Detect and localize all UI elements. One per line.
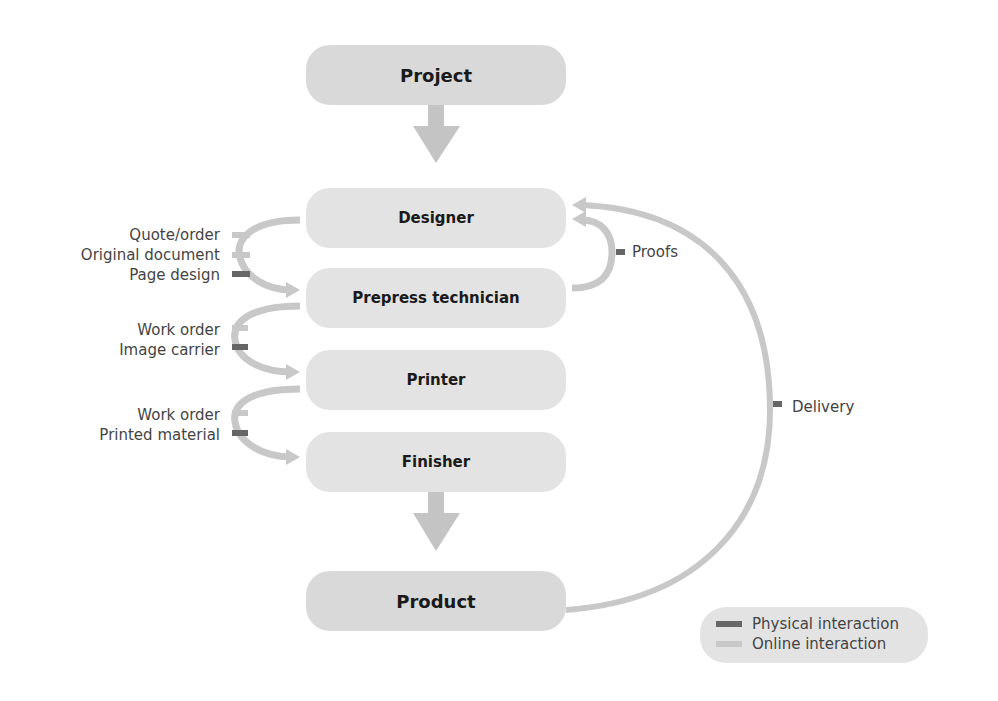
node-prepress-technician: Prepress technician [306, 268, 566, 328]
legend: Physical interaction Online interaction [700, 607, 928, 663]
flow-label-quote-order: Quote/order [129, 225, 220, 245]
flow-label-page-design: Page design [129, 265, 220, 285]
node-designer: Designer [306, 188, 566, 248]
flow-label-original-document: Original document [81, 245, 220, 265]
node-printer: Printer [306, 350, 566, 410]
flow-label-image-carrier: Image carrier [119, 340, 220, 360]
flow-label-printed-material: Printed material [99, 425, 220, 445]
flow-label-proofs: Proofs [632, 242, 678, 262]
flow-label-work-order-2: Work order [137, 405, 220, 425]
flow-label-work-order-1: Work order [137, 320, 220, 340]
flow-label-delivery: Delivery [792, 397, 854, 417]
node-finisher: Finisher [306, 432, 566, 492]
node-product: Product [306, 571, 566, 631]
online-swatch-icon [716, 641, 742, 647]
node-project: Project [306, 45, 566, 105]
legend-physical-label: Physical interaction [752, 615, 899, 633]
legend-online-label: Online interaction [752, 635, 886, 653]
physical-swatch-icon [716, 621, 742, 627]
legend-physical: Physical interaction [716, 615, 899, 633]
legend-online: Online interaction [716, 635, 886, 653]
